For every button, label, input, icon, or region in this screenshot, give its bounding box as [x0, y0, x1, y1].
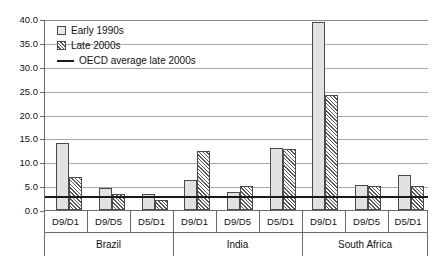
gridline [45, 163, 428, 164]
category-label: D5/D1 [388, 211, 428, 232]
category-label: D9/D1 [302, 211, 345, 232]
gridline [45, 116, 428, 117]
axis-separator [44, 211, 45, 232]
y-tick-label: 30.0 [4, 63, 38, 73]
axis-separator [427, 232, 428, 256]
axis-separator [173, 232, 174, 256]
y-tick-label: 35.0 [4, 39, 38, 49]
axis-separator [173, 211, 174, 232]
legend-label: Early 1990s [71, 25, 124, 36]
category-label: D9/D1 [44, 211, 87, 232]
gridline [45, 139, 428, 140]
bar-late-2000s [325, 95, 338, 210]
category-label: D5/D1 [130, 211, 173, 232]
group-axis: Brazil India South Africa [44, 232, 428, 256]
legend-line-icon [57, 60, 74, 62]
bar-late-2000s [155, 200, 168, 211]
axis-separator [302, 232, 303, 256]
group-label: Brazil [44, 232, 173, 256]
group-label: South Africa [302, 232, 428, 256]
group-label: India [173, 232, 302, 256]
bar-early-1990s [398, 175, 411, 210]
bar-late-2000s [69, 177, 82, 210]
oecd-average-reference-line [45, 196, 428, 198]
bar-early-1990s [56, 143, 69, 210]
axis-separator [427, 211, 428, 232]
category-label: D5/D1 [259, 211, 302, 232]
gridline [45, 20, 428, 21]
y-tick-label: 5.0 [4, 182, 38, 192]
bar-early-1990s [270, 148, 283, 210]
legend-item-oecd-average: OECD average late 2000s [57, 53, 196, 68]
y-tick-label: 0.0 [4, 206, 38, 216]
gridline [45, 92, 428, 93]
y-tick-label: 15.0 [4, 134, 38, 144]
category-label: D9/D1 [173, 211, 216, 232]
bar-early-1990s [312, 22, 325, 210]
axis-separator [302, 211, 303, 232]
bar-late-2000s [197, 151, 210, 210]
axis-separator [44, 232, 45, 256]
axis-separator [216, 211, 217, 232]
bar-early-1990s [184, 180, 197, 210]
category-label: D9/D5 [87, 211, 130, 232]
legend-label: Late 2000s [71, 40, 121, 51]
category-label: D9/D5 [345, 211, 388, 232]
axis-separator [87, 211, 88, 232]
legend-item-early-1990s: Early 1990s [57, 23, 196, 38]
category-label: D9/D5 [216, 211, 259, 232]
axis-separator [388, 211, 389, 232]
legend-label: OECD average late 2000s [79, 55, 196, 66]
y-tick-label: 20.0 [4, 111, 38, 121]
y-tick-label: 10.0 [4, 158, 38, 168]
legend: Early 1990s Late 2000s OECD average late… [57, 23, 196, 68]
bar-early-1990s [227, 192, 240, 210]
legend-swatch-hatched-icon [57, 41, 66, 50]
bar-early-1990s [99, 188, 112, 210]
bar-late-2000s [283, 149, 296, 210]
category-axis: D9/D1 D9/D5 D5/D1 D9/D1 D9/D5 D5/D1 D9/D… [44, 211, 428, 232]
axis-separator [345, 211, 346, 232]
y-tick-label: 25.0 [4, 87, 38, 97]
axis-separator [259, 211, 260, 232]
y-tick-label: 40.0 [4, 15, 38, 25]
chart-container: 40.0 35.0 30.0 25.0 20.0 15.0 10.0 5.0 0… [0, 0, 447, 265]
legend-item-late-2000s: Late 2000s [57, 38, 196, 53]
legend-swatch-dotted-icon [57, 26, 66, 35]
axis-separator [130, 211, 131, 232]
